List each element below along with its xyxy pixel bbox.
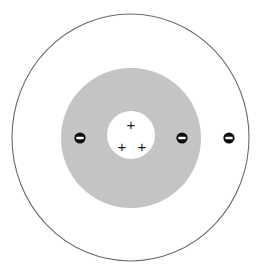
electron-outer-right [223,132,234,143]
minus-icon [178,137,185,139]
minus-icon [76,137,83,139]
proton-glyph-bottom-right: + [138,138,147,155]
atom-diagram-canvas: + + + [0,0,261,269]
proton-glyph-bottom-left: + [118,138,127,155]
atom-diagram: + + + [0,0,261,269]
electron-inner-left [74,132,85,143]
electron-inner-right [176,132,187,143]
proton-glyph-top: + [127,116,136,133]
minus-icon [225,137,232,139]
